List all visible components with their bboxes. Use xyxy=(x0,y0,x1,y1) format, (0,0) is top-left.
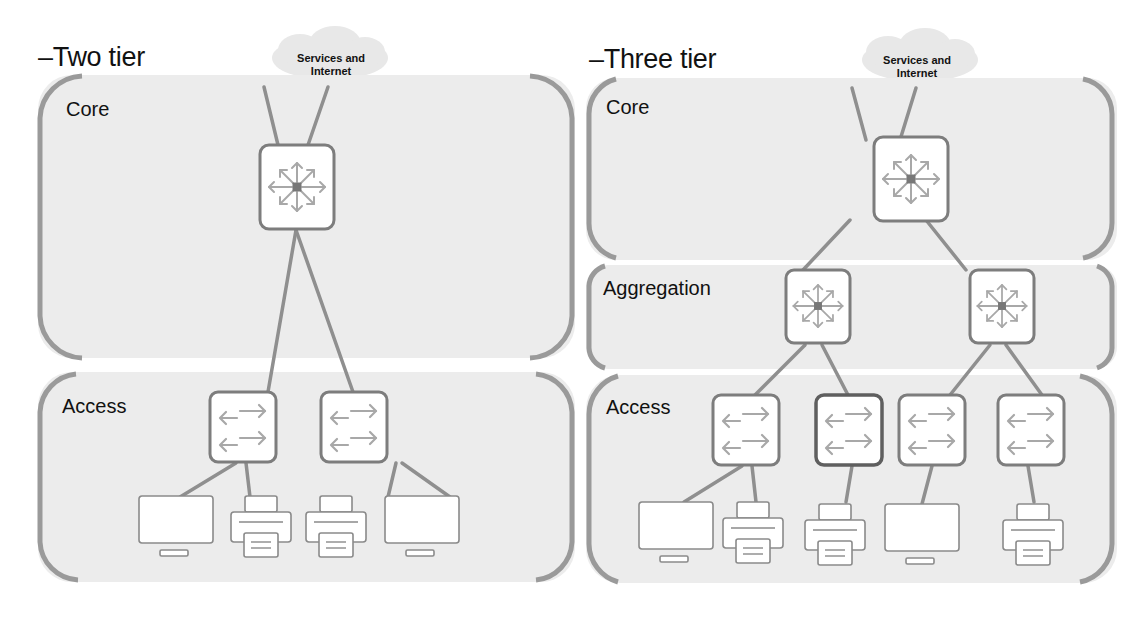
core-switch[interactable] xyxy=(260,145,334,229)
access-switch-2[interactable] xyxy=(816,395,882,465)
two-tier-access-label: Access xyxy=(62,395,126,418)
three-tier-title: –Three tier xyxy=(589,44,716,75)
access-switch-4[interactable] xyxy=(998,395,1064,465)
two-tier-diagram xyxy=(38,26,575,582)
three-tier-core-label: Core xyxy=(606,96,649,119)
network-diagram-canvas xyxy=(0,0,1147,617)
three-tier-aggregation-label: Aggregation xyxy=(603,277,711,300)
cloud-label-line2: Internet xyxy=(286,65,376,78)
aggregation-switch-1[interactable] xyxy=(786,270,850,343)
two-tier-core-label: Core xyxy=(66,98,109,121)
three-tier-cloud-label: Services and Internet xyxy=(872,54,962,80)
two-tier-title: –Two tier xyxy=(38,42,145,73)
three-tier-diagram xyxy=(586,28,1117,583)
access-switch-1[interactable] xyxy=(713,395,779,465)
two-tier-cloud-label: Services and Internet xyxy=(286,52,376,78)
access-switch-1[interactable] xyxy=(210,392,276,462)
access-switch-2[interactable] xyxy=(321,392,387,462)
cloud-label-line1: Services and xyxy=(286,52,376,65)
cloud-label-line1: Services and xyxy=(872,54,962,67)
cloud-label-line2: Internet xyxy=(872,67,962,80)
core-zone xyxy=(586,78,1117,260)
three-tier-access-label: Access xyxy=(606,396,670,419)
access-switch-3[interactable] xyxy=(899,395,965,465)
aggregation-switch-2[interactable] xyxy=(970,270,1034,343)
core-switch[interactable] xyxy=(874,137,948,221)
